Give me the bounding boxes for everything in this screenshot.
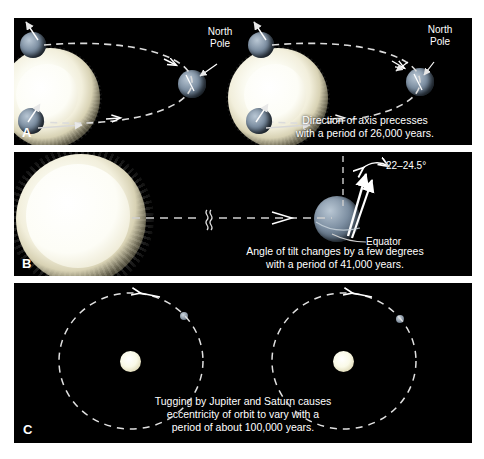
earth-a-left-top: [20, 32, 46, 58]
tilt-range-label-b: 22–24.5°: [386, 160, 466, 172]
panel-a-caption-line1: Direction of axis precesses: [302, 114, 427, 126]
earth-marker-c-right: [396, 315, 404, 323]
earth-a-right-top: [248, 32, 274, 58]
sight-arrowhead-b: [272, 212, 292, 224]
north-pole-label-a-right-line1: North: [428, 24, 452, 35]
orbit-arrow-a-left-lower: [106, 118, 120, 119]
panel-a-caption-line2: with a period of 26,000 years.: [296, 127, 434, 139]
orbit-arrow-a-left-upper: [164, 59, 176, 65]
panel-b-letter: B: [22, 256, 32, 271]
panel-c-caption: Tugging by Jupiter and Saturn causes ecc…: [118, 395, 368, 434]
break-mark-b: [206, 210, 208, 230]
panel-a-precession: North Pole North Pole Direction of axis …: [14, 18, 472, 145]
north-pole-label-a-left-line1: North: [208, 26, 232, 37]
tilt-range-arc-b: [363, 163, 388, 168]
north-pole-pointer-a-right-2: [396, 62, 408, 71]
north-pole-label-a-right-line2: Pole: [430, 36, 450, 47]
sun-core-b: [26, 164, 130, 268]
orbit-direction-arrow-c-right: [352, 293, 372, 297]
earth-a-right-right: [406, 68, 434, 96]
north-pole-label-a-right: North Pole: [410, 24, 470, 48]
sun-c-left: [120, 351, 141, 372]
panel-c-caption-line2: eccentricity of orbit to vary with a: [167, 408, 319, 420]
panel-b-obliquity: 22–24.5° Equator Angle of tilt changes b…: [14, 152, 472, 276]
north-pole-label-a-left: North Pole: [190, 26, 250, 50]
sun-c-right: [333, 351, 354, 372]
orbit-arrow-a-right-upper: [392, 61, 404, 68]
milankovitch-figure: North Pole North Pole Direction of axis …: [0, 0, 484, 459]
panel-c-caption-line1: Tugging by Jupiter and Saturn causes: [155, 395, 331, 407]
panel-b-caption: Angle of tilt changes by a few degrees w…: [204, 245, 466, 271]
earth-a-left-right: [178, 70, 206, 98]
panel-b-caption-line2: with a period of 41,000 years.: [266, 258, 404, 270]
panel-a-caption: Direction of axis precesses with a perio…: [262, 114, 468, 140]
panel-b-caption-line1: Angle of tilt changes by a few degrees: [246, 245, 423, 257]
panel-c-eccentricity: Tugging by Jupiter and Saturn causes ecc…: [14, 283, 472, 443]
earth-marker-c-left: [180, 312, 188, 320]
orbit-direction-arrow-c-left: [140, 293, 160, 297]
break-mark-b-2: [210, 210, 212, 230]
panel-c-letter: C: [23, 422, 33, 437]
north-pole-label-a-left-line2: Pole: [210, 38, 230, 49]
panel-c-caption-line3: period of about 100,000 years.: [172, 421, 314, 433]
panel-a-letter: A: [22, 125, 32, 140]
earth-b: [314, 196, 360, 242]
